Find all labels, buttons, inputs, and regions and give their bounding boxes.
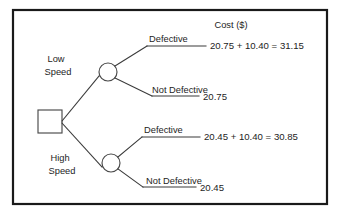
decision-label-low-speed-line2: Speed [45,67,72,77]
cost-column-header: Cost ($) [214,20,247,30]
edge-low-to-not-defective-diagonal [115,78,152,96]
decision-label-high-speed-line1: High [50,153,69,163]
decision-node-root [38,110,62,133]
outcome-value-low-not-defective: 20.75 [203,91,227,102]
branch-label-low-defective: Defective [149,34,188,44]
branch-label-high-not-defective: Not Defective [146,176,202,186]
outcome-value-low-defective: 20.75 + 10.40 = 31.15 [210,40,304,51]
decision-label-high-speed-line2: Speed [49,166,76,176]
outcome-value-high-not-defective: 20.45 [200,182,224,193]
outcome-value-high-defective: 20.45 + 10.40 = 30.85 [204,131,298,142]
edge-high-to-not-defective-diagonal [118,169,143,187]
decision-tree-figure: Low Speed Defective 20.75 + 10.40 = 31.1… [0,0,343,214]
decision-tree-canvas: Low Speed Defective 20.75 + 10.40 = 31.1… [0,0,343,214]
decision-label-low-speed-line1: Low [47,54,64,64]
branch-label-low-not-defective: Not Defective [152,85,208,95]
chance-node-high-speed [102,154,120,172]
edge-root-to-low-speed [62,76,99,121]
branch-label-high-defective: Defective [144,125,183,135]
chance-node-low-speed [99,63,117,81]
edge-low-to-defective-diagonal [115,46,147,66]
edge-high-to-defective-diagonal [118,137,142,157]
